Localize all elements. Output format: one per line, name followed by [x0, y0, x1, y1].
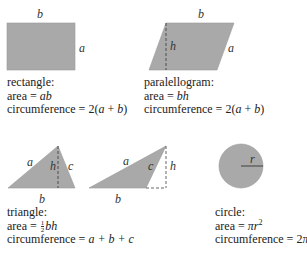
triangle-1-shape	[8, 146, 75, 188]
triangle-caption: triangle: area = 12bh circumference = a …	[7, 206, 134, 247]
parallelogram-shape	[149, 23, 234, 70]
rectangle-caption: rectangle: area = ab circumference = 2(a…	[7, 76, 127, 117]
rectangle-circumference: circumference = 2(a + b)	[7, 103, 127, 117]
triangle-2-label-b: b	[115, 193, 121, 205]
rectangle-label-a: a	[79, 42, 85, 54]
rectangle-label-b: b	[37, 8, 43, 20]
circle-area: area = πr2	[215, 220, 307, 234]
parallelogram-label-b: b	[198, 8, 204, 20]
circle-circumference: circumference = 2πr	[215, 233, 307, 247]
parallelogram-name: paralellogram:	[144, 76, 264, 90]
parallelogram-caption: paralellogram: area = bh circumference =…	[144, 76, 264, 117]
triangle-1-label-c: c	[68, 160, 73, 172]
circle-caption: circle: area = πr2 circumference = 2πr	[215, 206, 307, 247]
parallelogram-area: area = bh	[144, 90, 264, 104]
triangle-2-label-a: a	[123, 155, 129, 167]
rectangle-shape	[7, 23, 75, 70]
triangle-1-label-a: a	[27, 156, 33, 168]
rectangle-name: rectangle:	[7, 76, 127, 90]
triangle-1-label-b: b	[39, 193, 45, 205]
triangle-2-label-h: h	[170, 160, 176, 172]
circle-label-r: r	[250, 153, 255, 165]
triangle-name: triangle:	[7, 206, 134, 220]
triangle-area: area = 12bh	[7, 220, 134, 234]
triangle-2-label-c: c	[148, 160, 153, 172]
parallelogram-circumference: circumference = 2(a + b)	[144, 103, 264, 117]
triangle-circumference: circumference = a + b + c	[7, 233, 134, 247]
triangle-1-label-h: h	[50, 160, 56, 172]
parallelogram-label-a: a	[228, 42, 234, 54]
rectangle-area: area = ab	[7, 90, 127, 104]
parallelogram-label-h: h	[170, 40, 176, 52]
